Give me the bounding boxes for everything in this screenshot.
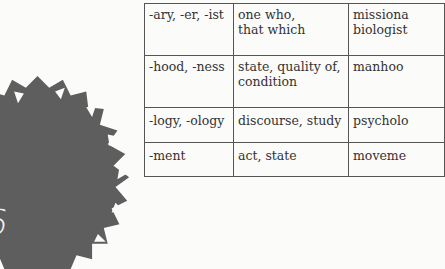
suffix-table: -ary, -er, -ist one who, that which miss… bbox=[144, 3, 445, 177]
example-line: biologist bbox=[353, 22, 440, 37]
example-cell: missiona biologist bbox=[349, 4, 445, 56]
meaning-line: condition bbox=[238, 74, 344, 89]
meaning-cell: one who, that which bbox=[234, 4, 349, 56]
meaning-line: act, state bbox=[238, 148, 344, 163]
example-cell: moveme bbox=[349, 143, 445, 177]
meaning-line: that which bbox=[238, 22, 344, 37]
table-row: -hood, -ness state, quality of, conditio… bbox=[145, 56, 445, 108]
meaning-cell: discourse, study bbox=[234, 108, 349, 143]
meaning-cell: state, quality of, condition bbox=[234, 56, 349, 108]
table-row: -ment act, state moveme bbox=[145, 143, 445, 177]
example-cell: psycholo bbox=[349, 108, 445, 143]
meaning-line: discourse, study bbox=[238, 113, 344, 128]
table-row: -logy, -ology discourse, study psycholo bbox=[145, 108, 445, 143]
suffix-cell: -ment bbox=[145, 143, 234, 177]
suffix-cell: -ary, -er, -ist bbox=[145, 4, 234, 56]
meaning-line: state, quality of, bbox=[238, 59, 344, 74]
meaning-line: one who, bbox=[238, 7, 344, 22]
chapter-badge: 6 bbox=[0, 74, 135, 269]
example-cell: manhoo bbox=[349, 56, 445, 108]
example-line: manhoo bbox=[353, 59, 440, 74]
suffix-cell: -hood, -ness bbox=[145, 56, 234, 108]
example-line: missiona bbox=[353, 7, 440, 22]
table-row: -ary, -er, -ist one who, that which miss… bbox=[145, 4, 445, 56]
example-line: moveme bbox=[353, 148, 440, 163]
meaning-cell: act, state bbox=[234, 143, 349, 177]
suffix-cell: -logy, -ology bbox=[145, 108, 234, 143]
example-line: psycholo bbox=[353, 113, 440, 128]
starburst-badge-icon bbox=[0, 74, 135, 269]
